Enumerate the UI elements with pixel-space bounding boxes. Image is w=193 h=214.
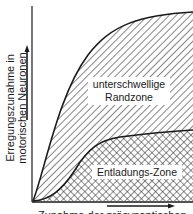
y-axis-label-line2: motorischen Neuronen [16, 52, 28, 163]
y-axis-label-line1: Erregungszunahme in [4, 54, 16, 162]
diagram-canvas: Erregungszunahme in motorischen Neuronen… [0, 0, 193, 214]
x-axis-label: Zunahme der präsynaptischen [38, 209, 187, 214]
upper-zone-label-line1: unterschwellige [93, 78, 166, 90]
lower-zone-label: Entladungs-Zone [97, 166, 177, 178]
upper-zone-label-line2: Randzone [105, 91, 153, 103]
